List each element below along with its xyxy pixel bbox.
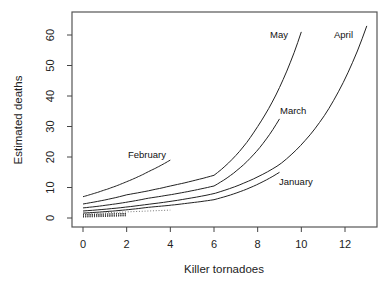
x-tick-label: 4 xyxy=(167,238,173,250)
series-group xyxy=(83,26,367,217)
series-label-may: May xyxy=(270,29,288,40)
series-labels: FebruaryMayAprilMarchJanuary xyxy=(128,29,353,187)
y-tick-label: 0 xyxy=(44,215,56,221)
series-label-february: February xyxy=(128,149,166,160)
series-line-dotted-series-b xyxy=(83,215,127,216)
y-axis-label: Estimated deaths xyxy=(12,75,24,164)
series-label-march: March xyxy=(280,105,306,116)
y-axis: 0102030405060 xyxy=(44,29,72,221)
series-line-march xyxy=(83,119,280,208)
y-tick-label: 30 xyxy=(44,120,56,132)
x-tick-label: 0 xyxy=(80,238,86,250)
y-tick-label: 50 xyxy=(44,59,56,71)
series-line-dotted-band xyxy=(83,216,127,217)
chart: 024681012 0102030405060 FebruaryMayApril… xyxy=(0,0,388,285)
series-line-february xyxy=(83,160,170,197)
x-tick-label: 2 xyxy=(124,238,130,250)
series-label-january: January xyxy=(279,176,313,187)
series-line-april xyxy=(83,26,367,211)
series-label-april: April xyxy=(334,29,353,40)
y-tick-label: 20 xyxy=(44,151,56,163)
series-line-dotted-band xyxy=(83,215,127,216)
x-axis-label: Killer tornadoes xyxy=(184,263,264,275)
y-tick-label: 40 xyxy=(44,90,56,102)
x-tick-label: 10 xyxy=(295,238,307,250)
x-tick-label: 8 xyxy=(255,238,261,250)
x-tick-label: 12 xyxy=(339,238,351,250)
y-tick-label: 60 xyxy=(44,29,56,41)
x-tick-label: 6 xyxy=(211,238,217,250)
plot-frame xyxy=(72,12,377,227)
x-axis: 024681012 xyxy=(80,227,351,250)
y-tick-label: 10 xyxy=(44,181,56,193)
